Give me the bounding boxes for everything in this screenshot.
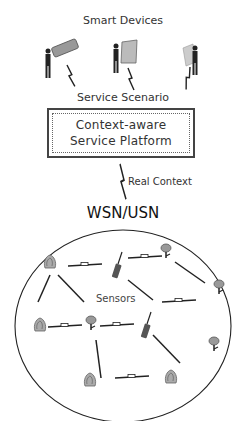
- platform-title-line2: Service Platform: [70, 133, 172, 149]
- wireless-link-icon: [128, 68, 134, 90]
- camera-sensor-icon: [209, 337, 219, 351]
- camera-sensor-icon: [214, 280, 224, 294]
- camera-sensor-icon: [86, 316, 96, 330]
- person-with-phone-icon: [46, 38, 79, 78]
- fire-sensor-icon: [165, 370, 176, 383]
- real-context-label: Real Context: [128, 176, 192, 187]
- wireless-link-icon: [67, 64, 75, 86]
- wireless-link-icon: [120, 164, 126, 199]
- service-scenario-label: Service Scenario: [0, 91, 246, 104]
- radio-node-icon: [112, 252, 122, 279]
- camera-sensor-icon: [161, 244, 171, 258]
- fire-sensor-icon: [34, 318, 45, 331]
- radio-node-icon: [141, 312, 151, 339]
- platform-inner-border: Context-aware Service Platform: [52, 113, 190, 153]
- context-aware-platform-box: Context-aware Service Platform: [47, 108, 195, 158]
- fire-sensor-icon: [44, 255, 55, 268]
- wsn-usn-label: WSN/USN: [0, 204, 246, 222]
- platform-title-line1: Context-aware: [76, 117, 167, 133]
- smart-devices-label: Smart Devices: [0, 14, 246, 27]
- sensors-label: Sensors: [96, 293, 136, 304]
- person-with-tablet-icon: [114, 40, 138, 73]
- fire-sensor-icon: [84, 373, 95, 386]
- sensor-links: [38, 255, 205, 379]
